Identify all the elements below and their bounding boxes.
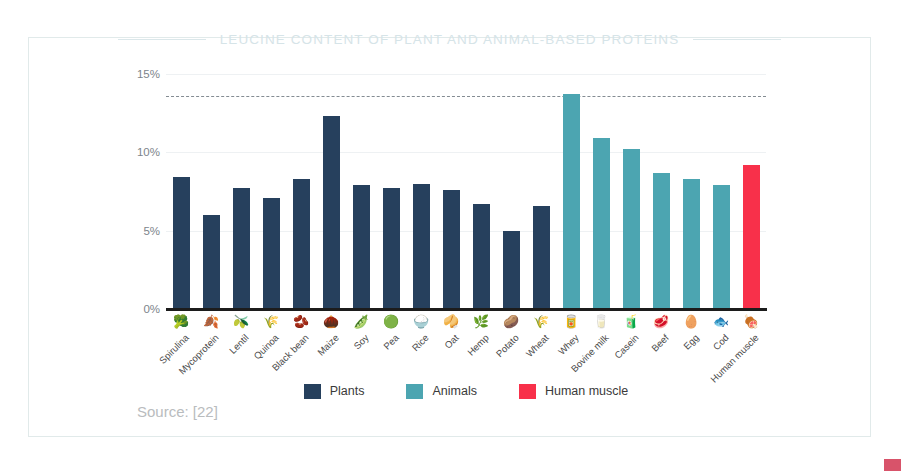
x-tick-label: Soy — [351, 332, 370, 351]
y-axis: 0%5%10%15% — [112, 60, 160, 309]
black-bean-icon: 🫘 — [290, 314, 312, 330]
x-tick-label: Potato — [494, 332, 521, 359]
plot-area — [166, 60, 766, 309]
bar-beef — [653, 173, 670, 309]
title-rule-left — [118, 39, 206, 40]
bar-potato — [503, 231, 520, 309]
bar-whey — [563, 94, 580, 309]
y-tick-label: 5% — [114, 225, 160, 237]
legend-item: Plants — [304, 384, 365, 399]
chart-title-band: LEUCINE CONTENT OF PLANT AND ANIMAL-BASE… — [28, 28, 871, 50]
x-tick-label: Lentil — [227, 332, 251, 356]
mycoprotein-icon: 🍂 — [200, 314, 222, 330]
title-rule-right — [693, 39, 781, 40]
x-tick-label: Casein — [612, 332, 641, 361]
legend-label: Plants — [330, 384, 365, 398]
potato-icon: 🥔 — [500, 314, 522, 330]
bar-bovine-milk — [593, 138, 610, 309]
x-tick-label: Whey — [556, 332, 581, 357]
legend-item: Human muscle — [519, 384, 628, 399]
x-axis-baseline — [166, 308, 767, 311]
beef-icon: 🥩 — [650, 314, 672, 330]
x-tick-label: Cod — [711, 332, 731, 352]
soy-icon: 🫛 — [350, 314, 372, 330]
x-tick-label: Egg — [681, 332, 701, 352]
bar-rice — [413, 184, 430, 309]
bar-spirulina — [173, 177, 190, 309]
bar-lentil — [233, 188, 250, 309]
x-tick-label: Wheat — [524, 332, 551, 359]
bar-quinoa — [263, 198, 280, 309]
legend-label: Human muscle — [545, 384, 628, 398]
bovine-milk-icon: 🥛 — [590, 314, 612, 330]
bar-cod — [713, 185, 730, 309]
cod-icon: 🐟 — [710, 314, 732, 330]
bar-mycoprotein — [203, 215, 220, 309]
bar-soy — [353, 185, 370, 309]
bar-pea — [383, 188, 400, 309]
bar-casein — [623, 149, 640, 309]
bar-maize — [323, 116, 340, 309]
source-note: Source: [22] — [137, 403, 218, 420]
x-tick-label: Hemp — [465, 332, 491, 358]
y-tick-label: 15% — [114, 68, 160, 80]
x-tick-label: Rice — [410, 332, 431, 353]
x-tick-label: Oat — [442, 332, 461, 351]
spirulina-icon: 🥦 — [170, 314, 192, 330]
human-muscle-icon: 🍖 — [740, 314, 762, 330]
reference-line-dashed — [166, 96, 766, 97]
y-tick-label: 0% — [114, 303, 160, 315]
y-tick-label: 10% — [114, 146, 160, 158]
casein-icon: 🧃 — [620, 314, 642, 330]
gridline-10% — [166, 152, 766, 153]
egg-icon: 🥚 — [680, 314, 702, 330]
page-title: LEUCINE CONTENT OF PLANT AND ANIMAL-BASE… — [220, 32, 680, 47]
legend-swatch — [519, 384, 536, 399]
oat-icon: 🥠 — [440, 314, 462, 330]
hemp-icon: 🌿 — [470, 314, 492, 330]
bar-wheat — [533, 206, 550, 309]
bar-hemp — [473, 204, 490, 309]
slide-canvas: LEUCINE CONTENT OF PLANT AND ANIMAL-BASE… — [0, 0, 901, 471]
legend-item: Animals — [406, 384, 476, 399]
bar-egg — [683, 179, 700, 309]
x-axis-labels: 🥦Spirulina🍂Mycoprotein🫒Lentil🌾Quinoa🫘Bla… — [166, 312, 767, 382]
lentil-icon: 🫒 — [230, 314, 252, 330]
bar-oat — [443, 190, 460, 309]
wheat-icon: 🌾 — [530, 314, 552, 330]
bar-human-muscle — [743, 165, 760, 309]
x-tick-label: Maize — [315, 332, 341, 358]
x-tick-label: Pea — [381, 332, 401, 352]
rice-icon: 🍚 — [410, 314, 432, 330]
gridline-5% — [166, 231, 766, 232]
bar-black-bean — [293, 179, 310, 309]
legend-swatch — [406, 384, 423, 399]
x-tick-label: Beef — [649, 332, 671, 354]
pea-icon: 🟢 — [380, 314, 402, 330]
legend-swatch — [304, 384, 321, 399]
whey-icon: 🥫 — [560, 314, 582, 330]
corner-mark — [884, 459, 901, 471]
gridline-15% — [166, 74, 766, 75]
quinoa-icon: 🌾 — [260, 314, 282, 330]
legend-label: Animals — [432, 384, 476, 398]
chart-legend: PlantsAnimalsHuman muscle — [166, 380, 766, 402]
maize-icon: 🌰 — [320, 314, 342, 330]
